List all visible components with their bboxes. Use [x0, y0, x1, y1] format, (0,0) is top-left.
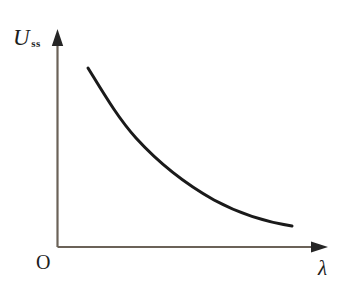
origin-label: O — [36, 252, 50, 272]
x-axis-arrowhead — [311, 241, 328, 252]
x-axis-label: λ — [318, 258, 327, 279]
y-axis-arrowhead — [52, 29, 63, 46]
y-axis-label-base: U — [13, 26, 30, 49]
y-axis-label: Uss — [13, 26, 41, 49]
y-axis-label-subscript: ss — [31, 38, 41, 49]
plot-canvas — [0, 0, 357, 299]
data-curve — [88, 68, 292, 226]
figure-container: Uss λ O — [0, 0, 357, 299]
